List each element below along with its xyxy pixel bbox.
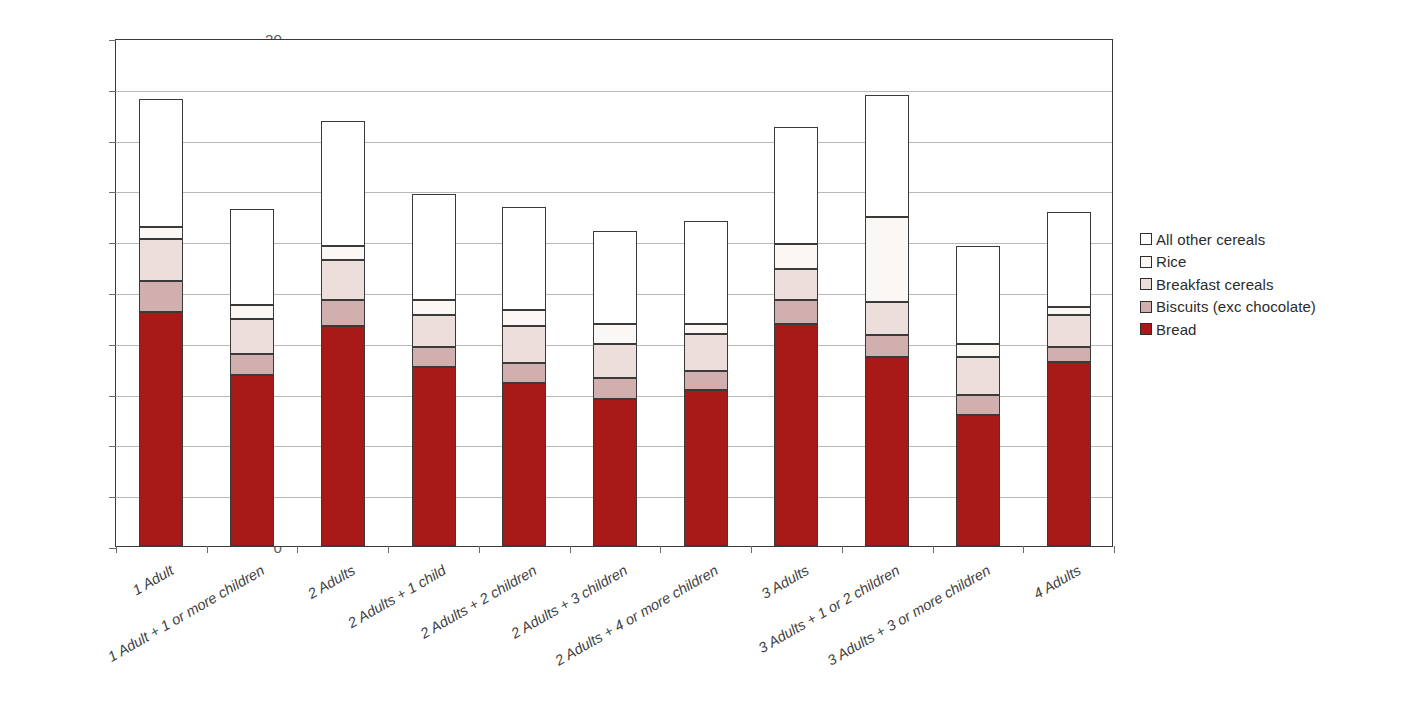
legend-swatch-icon <box>1140 278 1152 290</box>
bar-segment <box>139 99 183 227</box>
bar-segment <box>230 209 274 304</box>
bar-segment <box>1047 307 1091 315</box>
bar-segment <box>684 390 728 546</box>
bar-segment <box>865 302 909 335</box>
bar-segment <box>774 127 818 244</box>
y-axis-tick-mark <box>109 345 116 346</box>
bar-segment <box>412 300 456 315</box>
bar-segment <box>956 395 1000 415</box>
y-axis-tick-mark <box>109 91 116 92</box>
bar-segment <box>684 371 728 390</box>
bar-segment <box>593 399 637 546</box>
bar-segment <box>139 239 183 281</box>
bar-stack <box>230 209 274 546</box>
x-axis-category-labels: 1 Adult1 Adult + 1 or more children2 Adu… <box>0 547 1405 717</box>
x-axis-category-label: 1 Adult <box>19 562 176 662</box>
bar-segment <box>502 383 546 546</box>
y-axis-tick-mark <box>109 142 116 143</box>
bar-segment <box>502 207 546 310</box>
bar-stack <box>684 221 728 546</box>
bar-segment <box>1047 212 1091 307</box>
bar-segment <box>684 221 728 324</box>
bar-segment <box>956 246 1000 344</box>
y-axis-tick-mark <box>109 243 116 244</box>
bar-stack <box>593 231 637 546</box>
bar-segment <box>502 363 546 383</box>
bar-stack <box>502 207 546 546</box>
bar-segment <box>774 300 818 324</box>
legend-item: Bread <box>1140 318 1395 341</box>
bar-segment <box>502 310 546 327</box>
bar-stack <box>412 194 456 546</box>
y-axis-tick-mark <box>109 294 116 295</box>
legend-item-label: Biscuits (exc chocolate) <box>1156 298 1316 315</box>
bar-segment <box>865 335 909 357</box>
legend-item-label: Bread <box>1156 321 1197 338</box>
legend-swatch-icon <box>1140 256 1152 268</box>
bar-segment <box>865 95 909 217</box>
legend-item: Breakfast cereals <box>1140 273 1395 296</box>
bar-segment <box>1047 315 1091 347</box>
bar-segment <box>956 357 1000 395</box>
y-axis-tick-mark <box>109 192 116 193</box>
bar-stack <box>321 121 365 546</box>
bar-stack <box>774 127 818 546</box>
x-axis-category-label: 2 Adults + 3 children <box>80 562 630 717</box>
bar-segment <box>321 300 365 327</box>
bar-stack <box>956 246 1000 546</box>
legend-item: Rice <box>1140 251 1395 274</box>
x-axis-category-label: 2 Adults + 1 child <box>56 562 449 717</box>
y-axis-tick-mark <box>109 396 116 397</box>
legend-swatch-icon <box>1140 233 1152 245</box>
bar-segment <box>412 367 456 546</box>
bar-segment <box>412 315 456 347</box>
bar-segment <box>321 326 365 546</box>
bar-segment <box>412 347 456 367</box>
legend-item-label: Rice <box>1156 253 1186 270</box>
bar-stack <box>1047 212 1091 546</box>
legend-item-label: Breakfast cereals <box>1156 276 1274 293</box>
bar-segment <box>774 269 818 299</box>
bar-segment <box>774 324 818 546</box>
bar-segment <box>321 246 365 260</box>
legend-item-label: All other cereals <box>1156 231 1265 248</box>
y-axis-tick-mark <box>109 40 116 41</box>
bar-segment <box>139 227 183 238</box>
bar-segment <box>139 312 183 546</box>
bar-segment <box>412 194 456 299</box>
bar-segment <box>139 281 183 313</box>
bar-segment <box>593 231 637 324</box>
bar-segment <box>230 375 274 546</box>
stacked-bar-chart: 02468101214161820 1 Adult1 Adult + 1 or … <box>0 0 1405 717</box>
bar-segment <box>956 344 1000 357</box>
legend-item: Biscuits (exc chocolate) <box>1140 296 1395 319</box>
bar-segment <box>321 260 365 299</box>
chart-legend: All other cerealsRiceBreakfast cerealsBi… <box>1140 228 1395 341</box>
bar-segment <box>1047 347 1091 362</box>
legend-item: All other cereals <box>1140 228 1395 251</box>
bar-segment <box>865 357 909 546</box>
bars-layer <box>116 40 1112 546</box>
bar-segment <box>502 326 546 363</box>
bar-stack <box>139 99 183 546</box>
legend-swatch-icon <box>1140 301 1152 313</box>
bar-segment <box>230 354 274 374</box>
legend-swatch-icon <box>1140 323 1152 335</box>
plot-area <box>115 39 1113 547</box>
bar-stack <box>865 95 909 546</box>
bar-segment <box>774 244 818 269</box>
bar-segment <box>865 217 909 302</box>
bar-segment <box>956 415 1000 546</box>
bar-segment <box>684 324 728 334</box>
bar-segment <box>593 378 637 398</box>
y-axis-tick-mark <box>109 497 116 498</box>
y-axis-tick-mark <box>109 446 116 447</box>
bar-segment <box>593 344 637 378</box>
bar-segment <box>593 324 637 344</box>
bar-segment <box>230 319 274 355</box>
bar-segment <box>321 121 365 247</box>
bar-segment <box>230 305 274 319</box>
bar-segment <box>684 334 728 371</box>
bar-segment <box>1047 362 1091 546</box>
